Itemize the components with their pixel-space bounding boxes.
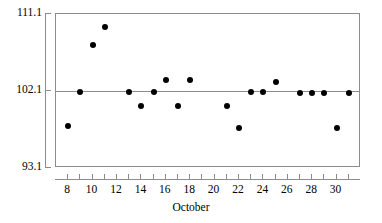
y-axis-tick-label: 111.1 [0,7,42,19]
x-axis-tick [262,174,263,179]
x-axis-tick [299,174,300,179]
x-axis-tick [104,174,105,179]
data-point [65,123,71,129]
data-point [126,89,132,95]
x-axis-tick [153,174,154,179]
x-axis-tick [348,174,349,179]
data-point [90,42,96,48]
data-point [321,90,327,96]
data-point [236,125,242,131]
plot-area [55,13,360,167]
data-point [163,77,169,83]
y-axis-tick-label: 93.1 [0,161,42,173]
x-axis-tick [311,174,312,179]
data-point [309,90,315,96]
x-axis-title: October [0,201,382,213]
x-axis-tick [201,174,202,179]
data-point [346,90,352,96]
x-axis-tick [250,174,251,179]
y-axis-tick [45,13,51,14]
x-axis-tick [128,174,129,179]
x-axis-tick [275,174,276,179]
x-axis-tick [214,174,215,179]
x-axis-tick [177,174,178,179]
x-axis-tick [226,174,227,179]
x-axis-tick [323,174,324,179]
x-axis-tick [165,174,166,179]
x-axis-tick [67,174,68,179]
data-point [224,103,230,109]
x-axis-tick [287,174,288,179]
x-axis-tick [79,174,80,179]
x-axis-line [55,179,360,180]
data-point [77,89,83,95]
data-point [273,79,279,85]
y-axis-tick [45,167,51,168]
data-point [248,89,254,95]
data-point [102,24,108,30]
data-point [260,89,266,95]
x-axis-tick [116,174,117,179]
x-axis-tick [92,174,93,179]
x-axis-tick [140,174,141,179]
x-axis-tick-label: 30 [321,183,351,195]
x-axis-tick [336,174,337,179]
data-point [175,103,181,109]
data-point [297,90,303,96]
y-axis-tick [45,90,51,91]
data-point [138,103,144,109]
y-axis-tick-label: 102.1 [0,84,42,96]
data-point [187,77,193,83]
scatter-chart: 93.1102.1111.1 81012141618202224262830 O… [0,0,382,223]
data-point [334,125,340,131]
x-axis-tick [238,174,239,179]
data-point [151,89,157,95]
x-axis-tick [189,174,190,179]
